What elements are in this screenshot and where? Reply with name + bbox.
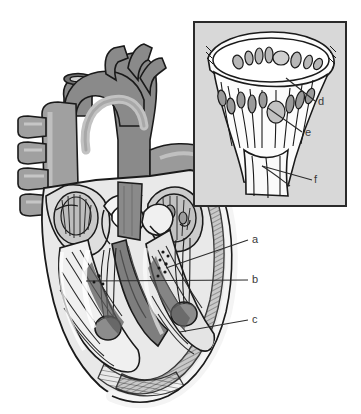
- label-e: e: [305, 127, 311, 138]
- label-f: f: [314, 174, 317, 185]
- label-d: d: [318, 96, 324, 107]
- label-a: a: [252, 234, 258, 245]
- heart-illustration: [0, 0, 361, 414]
- label-b: b: [252, 274, 258, 285]
- figure-canvas: a b c d e f: [0, 0, 361, 414]
- label-c: c: [252, 314, 258, 325]
- inset-panel: [194, 22, 346, 206]
